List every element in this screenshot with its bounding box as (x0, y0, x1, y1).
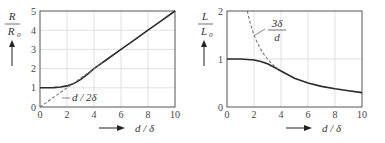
y-tick-label: 0 (31, 102, 36, 113)
left-x-arrow-icon (117, 125, 125, 131)
y-tick-label: 5 (31, 6, 36, 17)
right-x-arrow-icon (304, 125, 312, 131)
right-chart-panel: 0246810 012 L L 0 d / δ 3δ d (198, 6, 367, 135)
right-y-tick-labels: 012 (218, 6, 223, 113)
left-y-label-numerator: R (8, 10, 16, 22)
right-annotation-denominator: d (274, 31, 280, 43)
left-y-arrow-icon (9, 40, 15, 47)
left-annotation-label: d / 2δ (72, 91, 98, 103)
y-tick-label: 3 (31, 44, 36, 55)
x-tick-label: 6 (119, 109, 124, 120)
left-y-label-denominator: R (7, 25, 15, 37)
x-tick-label: 2 (252, 109, 257, 120)
right-x-label: d / δ (322, 122, 342, 134)
x-tick-label: 4 (92, 109, 97, 120)
left-x-label: d / δ (135, 122, 155, 134)
y-tick-label: 1 (31, 82, 36, 93)
x-tick-label: 8 (146, 109, 151, 120)
y-tick-label: 0 (218, 102, 223, 113)
left-chart-panel: 0246810 012345 R R 0 d / δ d / 2δ (5, 6, 180, 135)
exact-curve (227, 59, 362, 93)
x-tick-label: 0 (225, 109, 230, 120)
left-y-label-subscript: 0 (17, 31, 21, 39)
x-tick-label: 10 (357, 109, 367, 120)
y-tick-label: 2 (218, 6, 223, 17)
right-series (227, 11, 362, 93)
x-tick-label: 6 (306, 109, 311, 120)
x-tick-label: 8 (333, 109, 338, 120)
left-series (40, 11, 175, 107)
y-tick-label: 2 (31, 63, 36, 74)
right-y-label-numerator: L (201, 10, 208, 22)
right-y-label-denominator: L (200, 25, 207, 37)
x-tick-label: 4 (279, 109, 284, 120)
left-y-tick-labels: 012345 (31, 6, 36, 113)
right-y-arrow-icon (201, 40, 207, 47)
x-tick-label: 0 (38, 109, 43, 120)
chart-figure: 0246810 012345 R R 0 d / δ d / 2δ 024681… (0, 0, 385, 143)
right-x-tick-labels: 0246810 (225, 109, 368, 120)
y-tick-label: 4 (31, 25, 36, 36)
x-tick-label: 10 (170, 109, 180, 120)
x-tick-label: 2 (65, 109, 70, 120)
right-annotation-leader (255, 29, 265, 35)
y-tick-label: 1 (218, 54, 223, 65)
right-y-label-subscript: 0 (209, 31, 213, 39)
left-x-tick-labels: 0246810 (38, 109, 181, 120)
right-annotation-numerator: 3δ (271, 17, 284, 29)
